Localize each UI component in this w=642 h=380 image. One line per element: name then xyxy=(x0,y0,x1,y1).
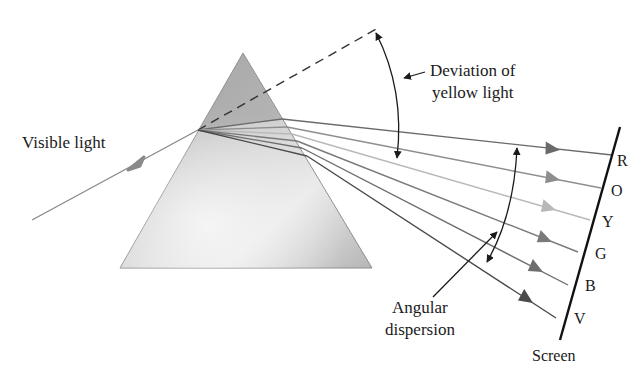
incident-arrow-icon xyxy=(128,157,144,170)
label-deviation-line1: Deviation of xyxy=(430,61,515,81)
prism xyxy=(120,53,372,268)
label-deviation: Deviation of yellow light xyxy=(430,61,515,103)
spectrum-label-green: G xyxy=(595,244,607,264)
spectrum-label-yellow: Y xyxy=(602,212,614,232)
label-dispersion-line1: Angular xyxy=(385,298,455,318)
arrow-violet-icon xyxy=(517,289,537,308)
ray-red xyxy=(282,119,612,155)
spectrum-label-orange: O xyxy=(611,181,623,201)
spectrum-label-violet: V xyxy=(574,309,586,329)
label-angular-dispersion: Angular dispersion xyxy=(385,298,455,340)
arrow-green-icon xyxy=(536,230,555,248)
label-visible-light: Visible light xyxy=(22,133,106,153)
deviation-annotation xyxy=(376,33,425,158)
label-screen: Screen xyxy=(532,346,576,366)
label-deviation-line2: yellow light xyxy=(430,83,515,103)
undeviated-path-dashed xyxy=(198,28,378,130)
prism-diagram xyxy=(0,0,642,380)
spectrum-label-red: R xyxy=(617,151,628,171)
screen-line xyxy=(560,127,620,340)
spectrum-label-blue: B xyxy=(585,276,596,296)
arrow-blue-icon xyxy=(527,259,546,277)
arrow-yellow-icon xyxy=(540,199,558,216)
arrow-orange-icon xyxy=(544,170,561,186)
label-dispersion-line2: dispersion xyxy=(385,320,455,340)
ray-arrowheads xyxy=(517,141,561,308)
